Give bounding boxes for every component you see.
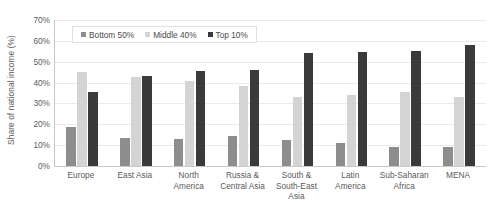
x-axis-tick-label: Sub-SaharanAfrica bbox=[377, 170, 431, 209]
y-axis-tick-label: 30% bbox=[22, 98, 50, 108]
x-axis-tick-label-line: America bbox=[324, 181, 376, 192]
bar[interactable] bbox=[174, 139, 184, 166]
bar[interactable] bbox=[347, 95, 357, 166]
bar[interactable] bbox=[142, 76, 152, 166]
x-axis-tick-label: NorthAmerica bbox=[162, 170, 216, 209]
legend-swatch-icon bbox=[145, 32, 150, 37]
bar[interactable] bbox=[228, 136, 238, 166]
bar[interactable] bbox=[465, 45, 475, 166]
bar-group bbox=[378, 20, 432, 166]
y-axis-tick-label: 0% bbox=[22, 161, 50, 171]
bar[interactable] bbox=[293, 97, 303, 166]
bar-group bbox=[324, 20, 378, 166]
x-axis-tick-label-line: South-East bbox=[271, 181, 323, 192]
y-axis-tick-label: 50% bbox=[22, 57, 50, 67]
legend-item[interactable]: Top 10% bbox=[208, 30, 248, 40]
bar[interactable] bbox=[250, 70, 260, 166]
bar[interactable] bbox=[304, 53, 314, 166]
x-axis-tick-label-line: Latin bbox=[324, 170, 376, 181]
x-axis-tick-label: Russia &Central Asia bbox=[216, 170, 270, 209]
x-axis-tick-label-line: Sub-Saharan bbox=[378, 170, 430, 181]
y-axis-tick-label: 60% bbox=[22, 36, 50, 46]
bar[interactable] bbox=[239, 86, 249, 166]
bar[interactable] bbox=[454, 97, 464, 166]
bar[interactable] bbox=[400, 92, 410, 166]
legend-label: Middle 40% bbox=[153, 30, 196, 40]
x-axis-tick-label-line: South & bbox=[271, 170, 323, 181]
legend-swatch-icon bbox=[208, 32, 213, 37]
x-axis-tick-label-line: America bbox=[163, 181, 215, 192]
legend-item[interactable]: Middle 40% bbox=[145, 30, 196, 40]
x-axis-tick-label: South &South-EastAsia bbox=[270, 170, 324, 209]
x-axis-tick-label-line: MENA bbox=[432, 170, 484, 181]
y-axis-tick-label: 70% bbox=[22, 15, 50, 25]
x-axis-tick-label-line: East Asia bbox=[109, 170, 161, 181]
x-axis-tick-label: Europe bbox=[54, 170, 108, 209]
bar[interactable] bbox=[185, 81, 195, 167]
x-axis-tick-label-line: Europe bbox=[55, 170, 107, 181]
y-axis-title-text: Share of national income (%) bbox=[6, 35, 16, 145]
bar[interactable] bbox=[443, 147, 453, 166]
x-axis-tick-label-line: Asia bbox=[271, 191, 323, 202]
bar[interactable] bbox=[358, 52, 368, 166]
bar[interactable] bbox=[77, 72, 87, 166]
x-axis-tick-label: LatinAmerica bbox=[323, 170, 377, 209]
y-axis-tick-labels: 70%60%50%40%30%20%10%0% bbox=[22, 0, 53, 180]
y-axis-tick-label: 10% bbox=[22, 140, 50, 150]
bar[interactable] bbox=[282, 140, 292, 166]
bar[interactable] bbox=[66, 127, 76, 166]
x-axis-tick-label-line: Central Asia bbox=[217, 181, 269, 192]
bar[interactable] bbox=[120, 138, 130, 166]
y-axis-tick-label: 40% bbox=[22, 78, 50, 88]
x-axis-tick-label: MENA bbox=[431, 170, 485, 209]
legend-label: Bottom 50% bbox=[89, 30, 134, 40]
x-axis-tick-label-line: Africa bbox=[378, 181, 430, 192]
bar[interactable] bbox=[88, 92, 98, 166]
y-axis-tick-label: 20% bbox=[22, 119, 50, 129]
y-axis-title: Share of national income (%) bbox=[0, 0, 22, 180]
x-axis-tick-labels: EuropeEast AsiaNorthAmericaRussia &Centr… bbox=[54, 170, 485, 209]
x-axis-tick-label-line: North bbox=[163, 170, 215, 181]
legend-label: Top 10% bbox=[216, 30, 248, 40]
bar[interactable] bbox=[336, 143, 346, 166]
bar[interactable] bbox=[389, 147, 399, 166]
x-axis-tick-label-line: Russia & bbox=[217, 170, 269, 181]
legend-item[interactable]: Bottom 50% bbox=[81, 30, 134, 40]
x-axis-tick-label: East Asia bbox=[108, 170, 162, 209]
bar[interactable] bbox=[411, 51, 421, 166]
bar[interactable] bbox=[196, 71, 206, 166]
bar-group bbox=[432, 20, 486, 166]
bar[interactable] bbox=[131, 77, 141, 166]
bar-group bbox=[271, 20, 325, 166]
chart-legend: Bottom 50%Middle 40%Top 10% bbox=[72, 26, 257, 43]
bar-chart: Share of national income (%) 70%60%50%40… bbox=[0, 0, 491, 209]
legend-swatch-icon bbox=[81, 32, 86, 37]
